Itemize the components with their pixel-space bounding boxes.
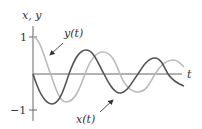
tick-label-neg-one: −1: [10, 104, 26, 117]
series-y-of-t: [33, 37, 184, 102]
annotation-x-of-t: x(t): [76, 113, 95, 126]
series-x-of-t: [33, 50, 184, 104]
annotation-y-of-t: y(t): [63, 27, 83, 40]
damped-oscillation-chart: x, y t 1 −1 y(t) x(t): [0, 0, 202, 129]
arrow-y-of-t: [50, 43, 63, 55]
arrow-x-of-t: [100, 100, 113, 112]
y-axis-label: x, y: [22, 9, 42, 22]
x-axis-label: t: [187, 68, 192, 81]
tick-label-pos-one: 1: [20, 31, 27, 44]
